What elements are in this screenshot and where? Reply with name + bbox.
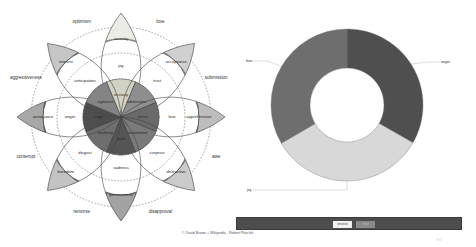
corner-mark xyxy=(436,238,442,241)
donut-slices xyxy=(271,29,423,181)
petal-outer-label: apprehension xyxy=(186,114,212,119)
donut-slice-fear[interactable] xyxy=(271,29,347,143)
donut-label-joy: joy xyxy=(246,188,252,192)
petal-outer-label: acceptance xyxy=(165,59,187,64)
petal-inner-label: grief xyxy=(117,136,126,141)
dyad-label-optimism: optimism xyxy=(72,19,91,24)
petal-middle-label: surprise xyxy=(150,150,166,155)
petal-band xyxy=(5,1,104,100)
petal-outer-label: distraction xyxy=(167,169,187,174)
dyad-label-disapproval: disapproval xyxy=(149,209,173,214)
donut-slice-joy[interactable] xyxy=(281,123,413,181)
plutchik-wheel: ecstasyjoyserenityadmirationtrustaccepta… xyxy=(0,0,244,235)
petal-inner-label: vigilance xyxy=(97,99,114,104)
leader-line xyxy=(251,61,281,66)
reset-button[interactable]: reset xyxy=(356,221,375,228)
petal-middle-label: joy xyxy=(117,63,124,68)
donut-label-fear: fear xyxy=(246,59,253,63)
petal-band xyxy=(5,134,104,233)
petal-outer-label: boredom xyxy=(58,169,75,174)
donut-label-anger: anger xyxy=(441,60,451,64)
dyad-label-submission: submission xyxy=(205,75,228,80)
petal-inner-label: loathing xyxy=(98,130,113,135)
petal-band xyxy=(138,1,237,100)
petal-outer-label: serenity xyxy=(114,36,130,41)
petal-inner-label: rage xyxy=(95,114,104,119)
petal-outer-label: pensiveness xyxy=(109,192,132,197)
petal-middle-label: anger xyxy=(65,114,76,119)
petal-middle-label: trust xyxy=(153,78,162,83)
dyad-label-love: love xyxy=(156,19,165,24)
petal-middle-label: sadness xyxy=(113,165,129,170)
petal-outer-label: interest xyxy=(59,59,74,64)
petal-middle-label: fear xyxy=(168,114,176,119)
petal-band xyxy=(81,0,161,53)
petal-middle-label: disgust xyxy=(78,150,92,155)
dyad-label-awe: awe xyxy=(212,154,221,159)
petal-band xyxy=(138,134,237,233)
petals: ecstasyjoyserenityadmirationtrustaccepta… xyxy=(0,0,244,235)
petal-band xyxy=(81,181,161,235)
footer-credit: © David Brown + Wikipedia - Robert Plutc… xyxy=(182,231,253,235)
leader-line xyxy=(411,62,440,64)
dyad-label-remorse: remorse xyxy=(73,209,90,214)
dyad-label-contempt: contempt xyxy=(16,154,36,159)
petal-outer-label: annoyance xyxy=(33,114,54,119)
petal-inner-label: terror xyxy=(138,114,149,119)
petal-inner-label: amazement xyxy=(126,130,149,135)
dyad-label-aggressiveness: aggressiveness xyxy=(10,75,43,80)
emotion-donut-chart: angerjoyfear xyxy=(236,0,476,210)
leader-line xyxy=(253,180,347,190)
toolbar: emotion reset xyxy=(236,217,462,230)
petal-inner-label: admiration xyxy=(127,99,147,104)
donut-slice-anger[interactable] xyxy=(347,29,423,143)
petal-middle-label: anticipation xyxy=(74,78,96,83)
emotion-button[interactable]: emotion xyxy=(333,221,352,228)
